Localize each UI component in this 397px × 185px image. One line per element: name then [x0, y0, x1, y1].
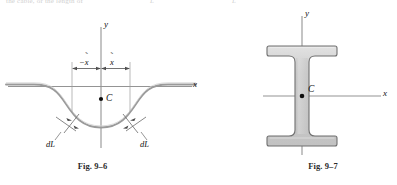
- y-axis-label: y: [104, 19, 108, 29]
- y-axis-label: y: [305, 8, 309, 18]
- element-label-left: dL: [46, 139, 55, 149]
- dimension-label-right: ˜x: [110, 57, 114, 67]
- figure-9-7: y x C Fig. 9–7: [205, 0, 397, 185]
- centroid-dot: [300, 94, 305, 99]
- element-leader-left: [55, 132, 61, 140]
- centroid-label: C: [106, 93, 112, 103]
- dimension-right: [101, 67, 130, 70]
- x-axis-label: x: [193, 79, 197, 89]
- figure-9-6: y x C −˜x ˜x dL dL Fig. 9–6: [0, 0, 205, 185]
- dimension-left: [72, 67, 101, 70]
- x-axis-label: x: [383, 88, 387, 98]
- dimension-label-left: −˜x: [79, 57, 89, 67]
- centroid-label: C: [308, 84, 314, 94]
- figure-9-7-caption: Fig. 9–7: [227, 161, 397, 171]
- figure-9-7-drawing: [205, 0, 397, 185]
- centroid-dot: [99, 97, 103, 101]
- figure-page: the cable, or the length of L L: [0, 0, 397, 185]
- figure-9-6-drawing: [0, 0, 205, 185]
- figure-9-6-caption: Fig. 9–6: [0, 161, 195, 171]
- element-label-right: dL: [140, 139, 149, 149]
